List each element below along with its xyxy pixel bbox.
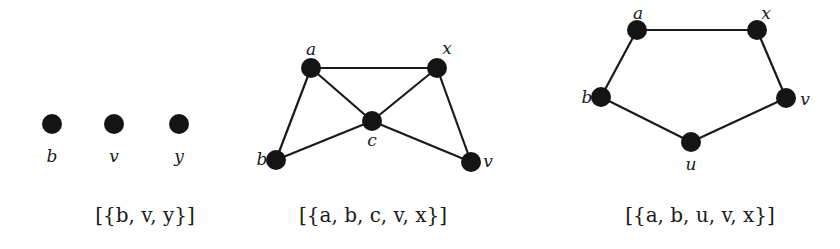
edge-c-v <box>372 121 471 162</box>
vertex-c <box>362 111 382 131</box>
nodes: axcbv <box>257 38 494 172</box>
edge-x-c <box>372 68 437 121</box>
vertex-label-v: v <box>483 151 493 171</box>
vertex-label-b: b <box>582 87 593 107</box>
graph-caption: [{a, b, c, v, x}] <box>299 203 447 227</box>
vertex-b <box>266 150 286 170</box>
graph-diagram-canvas: bvy [{b, v, y}] axcbv [{a, b, c, v, x}] … <box>0 0 840 249</box>
edge-v-u <box>691 98 786 142</box>
vertex-x <box>747 20 767 40</box>
vertex-label-x: x <box>761 3 771 23</box>
nodes: bvy <box>42 114 189 166</box>
vertex-label-u: u <box>686 154 697 174</box>
edge-b-u <box>601 97 691 142</box>
vertex-a <box>301 58 321 78</box>
edges <box>601 30 786 142</box>
vertex-label-b: b <box>47 146 58 166</box>
vertex-label-c: c <box>367 130 377 150</box>
vertex-label-a: a <box>633 3 643 23</box>
vertex-label-x: x <box>442 38 452 58</box>
edge-a-b <box>276 68 311 160</box>
edge-x-v <box>437 68 471 162</box>
edge-x-v <box>757 30 786 98</box>
vertex-label-y: y <box>173 146 184 166</box>
vertex-b <box>42 114 62 134</box>
vertex-v <box>461 152 481 172</box>
vertex-y <box>169 114 189 134</box>
graph-caption: [{b, v, y}] <box>95 203 195 227</box>
graph-caption: [{a, b, u, v, x}] <box>625 203 775 227</box>
vertex-label-v: v <box>800 89 810 109</box>
vertex-u <box>681 132 701 152</box>
vertex-a <box>627 20 647 40</box>
edge-a-c <box>311 68 372 121</box>
graph-abcvx: axcbv [{a, b, c, v, x}] <box>257 38 494 227</box>
edge-a-b <box>601 30 637 97</box>
graph-independent-set-byv: bvy [{b, v, y}] <box>42 114 195 227</box>
vertex-b <box>591 87 611 107</box>
vertex-label-v: v <box>109 146 119 166</box>
graph-cycle-abuvx: axbvu [{a, b, u, v, x}] <box>582 3 811 227</box>
edge-b-c <box>276 121 372 160</box>
nodes: axbvu <box>582 3 811 174</box>
vertex-x <box>427 58 447 78</box>
vertex-v <box>776 88 796 108</box>
vertex-v <box>104 114 124 134</box>
vertex-label-a: a <box>306 39 316 59</box>
vertex-label-b: b <box>257 149 268 169</box>
